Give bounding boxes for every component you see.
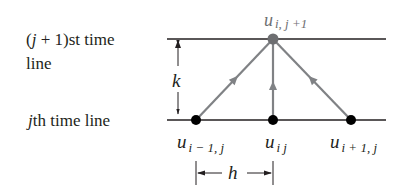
k-label: k <box>172 71 180 90</box>
u-var: u <box>177 131 187 152</box>
node-top <box>268 34 279 45</box>
u-var: u <box>264 10 273 30</box>
h-label: h <box>228 163 238 182</box>
node-left <box>191 115 201 125</box>
top-time-line-label-line2: line <box>26 55 52 72</box>
arrow-icon <box>269 81 277 90</box>
label-text: th time line <box>33 111 110 130</box>
node-center <box>268 115 278 125</box>
node-top-label: ui, j +1 <box>264 11 307 30</box>
subscript: i j <box>277 140 287 155</box>
node-left-label: ui − 1, j <box>177 132 224 154</box>
u-var: u <box>330 131 340 152</box>
subscript: i, j +1 <box>275 16 307 31</box>
node-right <box>346 115 356 125</box>
u-var: u <box>265 131 275 152</box>
subscript: i + 1, j <box>342 140 378 155</box>
label-text: + 1)st time <box>36 30 114 49</box>
subscript: i − 1, j <box>189 140 225 155</box>
node-center-label: ui j <box>265 132 287 154</box>
top-time-line-label: (j + 1)st time <box>26 31 114 48</box>
stencil-diagram <box>0 0 408 193</box>
bottom-time-line-label: jth time line <box>28 112 110 129</box>
node-right-label: ui + 1, j <box>330 132 377 154</box>
